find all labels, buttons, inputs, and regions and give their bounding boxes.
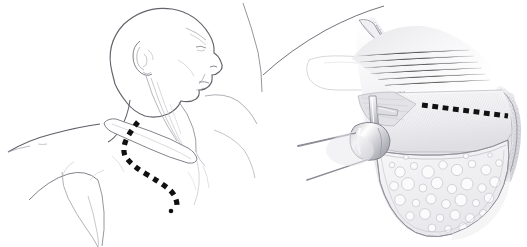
figure-root: Supraclavicular and sternal incision wit… xyxy=(0,0,527,247)
incision-terminal-dot xyxy=(169,209,174,214)
right-incision-label: Dashed line marking deep incision across… xyxy=(2,37,112,43)
left-incision-label: Planned skin incision (dashed) xyxy=(2,29,70,35)
surgical-illustration-svg: Supraclavicular and sternal incision wit… xyxy=(0,0,527,247)
panel-right-label: Magnified operative field: elevated flap… xyxy=(2,21,183,27)
annotations-note: No printed text, numbers, letters or cal… xyxy=(2,45,153,51)
panel-left-label: Patient in supine position, head turned,… xyxy=(2,13,125,19)
figure-title-text: Supraclavicular and sternal incision wit… xyxy=(2,5,153,11)
instrument-cast-shadow xyxy=(326,134,374,166)
